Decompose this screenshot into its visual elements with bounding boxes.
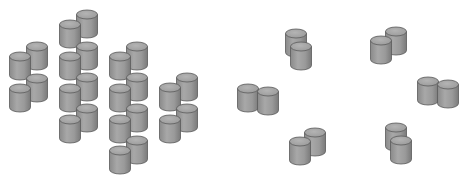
- pair-right: [418, 77, 459, 108]
- cluster-2-cylinder: [60, 20, 81, 48]
- pair-bottom-right: [386, 123, 412, 164]
- pair-right-cylinder: [438, 80, 459, 108]
- pair-bottom-left: [290, 128, 326, 165]
- cluster-1: [10, 42, 48, 112]
- pair-top-right: [371, 27, 407, 64]
- right-cylinder-ring: [238, 27, 459, 165]
- pair-right-cylinder: [418, 77, 439, 105]
- cluster-1-cylinder: [10, 52, 31, 80]
- pair-top-left-cylinder: [291, 42, 312, 70]
- cluster-3: [110, 42, 148, 174]
- pair-left-cylinder: [238, 84, 259, 112]
- pair-bottom-right-cylinder: [391, 136, 412, 164]
- pair-bottom-left-cylinder: [290, 137, 311, 165]
- pair-top-left: [286, 29, 312, 70]
- cluster-3-cylinder: [110, 146, 131, 174]
- pair-top-right-cylinder: [371, 36, 392, 64]
- cluster-4-cylinder: [160, 115, 181, 143]
- cluster-2: [60, 10, 98, 143]
- cluster-2-cylinder: [60, 115, 81, 143]
- left-cylinder-clusters: [10, 10, 198, 174]
- cluster-4: [160, 73, 198, 143]
- pair-left: [238, 84, 279, 115]
- cylinder-diagram: [0, 0, 468, 182]
- pair-left-cylinder: [258, 87, 279, 115]
- cluster-1-cylinder: [10, 84, 31, 112]
